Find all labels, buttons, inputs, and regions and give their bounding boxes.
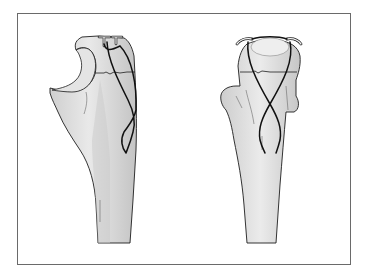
left-bone-lateral-view (50, 36, 136, 243)
right-bone-ap-view (221, 37, 301, 243)
tension-band-illustration (0, 0, 366, 280)
right-articular-dome (251, 38, 289, 56)
